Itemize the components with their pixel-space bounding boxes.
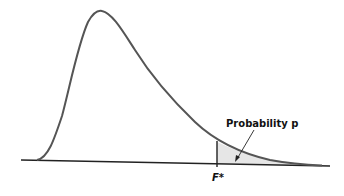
- tail-area: [217, 142, 322, 166]
- f-distribution-chart: Probability p F*: [0, 0, 344, 196]
- critical-value-label: F*: [212, 172, 225, 183]
- density-curve: [37, 11, 322, 166]
- probability-label: Probability p: [226, 118, 298, 129]
